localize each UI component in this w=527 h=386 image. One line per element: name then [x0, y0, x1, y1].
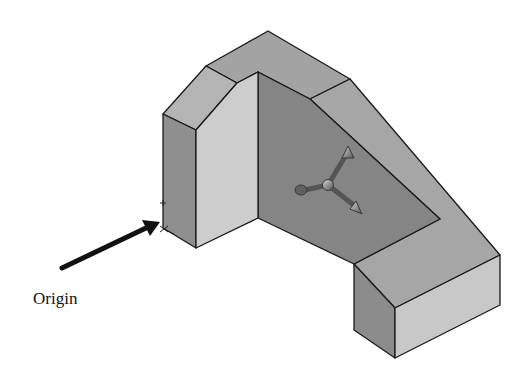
left-side-face[interactable]: [163, 114, 196, 248]
triad-arrow-left-icon[interactable]: [295, 185, 307, 195]
cad-part-viewport: [0, 0, 527, 386]
origin-callout-arrow: [62, 220, 160, 268]
origin-label: Origin: [33, 289, 77, 309]
triad-center-ball[interactable]: [323, 180, 334, 191]
cad-part[interactable]: [163, 31, 500, 358]
